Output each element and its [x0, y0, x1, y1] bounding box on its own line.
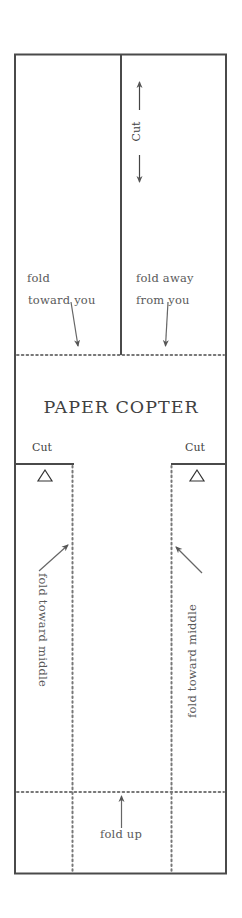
right-cut-label: Cut — [185, 442, 205, 453]
right-triangle-icon — [190, 470, 204, 481]
fold-toward-arrow-icon — [71, 302, 78, 346]
fold-away-arrow-icon — [166, 302, 169, 346]
right-fold-middle-arrow-icon — [176, 547, 202, 573]
left-fold-middle-label: fold toward middle — [37, 573, 49, 687]
right-fold-middle-label: fold toward middle — [187, 604, 199, 718]
left-triangle-icon — [38, 470, 52, 481]
left-fold-middle-arrow-icon — [39, 545, 68, 571]
fold-away-label-line2: from you — [136, 295, 190, 307]
fold-toward-label-line1: fold — [27, 273, 50, 285]
fold-up-label: fold up — [0, 829, 242, 841]
page-title: PAPER COPTER — [0, 399, 242, 417]
left-cut-label: Cut — [32, 442, 52, 453]
paper-copter-template — [0, 0, 242, 918]
fold-away-label-line1: fold away — [136, 273, 194, 285]
fold-toward-label-line2: toward you — [28, 295, 96, 307]
top-cut-label: Cut — [131, 122, 142, 142]
